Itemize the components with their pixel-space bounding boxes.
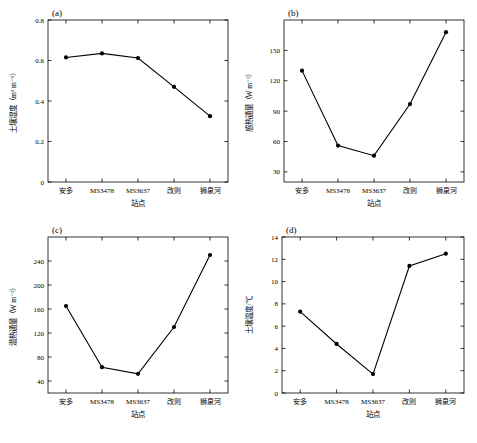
x-tick-label: MS3478 — [325, 398, 350, 406]
y-tick-label: 0.6 — [35, 57, 44, 65]
data-point — [208, 253, 212, 257]
y-tick-label: 0 — [275, 390, 279, 398]
panel-c-plot: 4080120160200240安多MS3478MS3637改则狮泉河站点潜热通… — [0, 215, 240, 443]
y-tick-label: 10 — [271, 278, 279, 286]
data-point — [64, 55, 68, 59]
x-tick-label: 狮泉河 — [200, 397, 221, 406]
x-tick-label: MS3478 — [326, 187, 351, 195]
y-axis-label: 土壤湿度（m³ m⁻³） — [8, 69, 18, 133]
x-tick-label: 狮泉河 — [435, 397, 456, 406]
data-point — [64, 304, 68, 308]
y-tick-label: 60 — [273, 138, 281, 146]
data-point — [208, 114, 212, 118]
x-tick-label: 狮泉河 — [200, 186, 221, 195]
data-point — [100, 365, 104, 369]
data-point — [335, 342, 339, 346]
data-point — [372, 154, 376, 158]
x-tick-label: 安多 — [59, 397, 73, 406]
data-point — [407, 264, 411, 268]
figure-canvas: 00.20.40.60.8安多MS3478MS3637改则狮泉河站点土壤湿度（m… — [0, 0, 477, 443]
y-tick-label: 4 — [275, 345, 279, 353]
y-tick-label: 0.8 — [35, 17, 44, 25]
x-axis-label: 站点 — [366, 409, 381, 419]
y-tick-label: 30 — [273, 168, 281, 176]
data-point — [136, 372, 140, 376]
panel-d-plot: 02468101214安多MS3478MS3637改则狮泉河站点土壤温度/℃(d… — [238, 215, 477, 443]
data-point — [371, 372, 375, 376]
x-axis-label: 站点 — [367, 198, 382, 208]
series-line — [66, 255, 210, 374]
panel-label: (b) — [288, 8, 299, 18]
y-tick-label: 240 — [34, 258, 45, 266]
x-tick-label: MS3637 — [361, 398, 386, 406]
y-tick-label: 8 — [275, 300, 279, 308]
panel-c: 4080120160200240安多MS3478MS3637改则狮泉河站点潜热通… — [0, 215, 240, 443]
axes-frame — [48, 20, 228, 182]
x-tick-label: 安多 — [59, 186, 73, 195]
y-tick-label: 200 — [34, 282, 45, 290]
y-axis-label: 土壤温度/℃ — [244, 295, 254, 333]
panel-label: (d) — [286, 225, 297, 235]
x-tick-label: MS3478 — [90, 398, 115, 406]
panel-a-plot: 00.20.40.60.8安多MS3478MS3637改则狮泉河站点土壤湿度（m… — [0, 0, 240, 218]
panel-label: (a) — [52, 8, 62, 18]
y-tick-label: 14 — [271, 234, 279, 242]
y-tick-label: 6 — [275, 323, 279, 331]
x-tick-label: MS3478 — [90, 187, 115, 195]
axes-frame — [282, 237, 464, 393]
y-tick-label: 0 — [41, 179, 45, 187]
y-tick-label: 120 — [270, 77, 281, 85]
x-tick-label: 安多 — [293, 397, 307, 406]
data-point — [136, 56, 140, 60]
series-line — [302, 32, 446, 156]
x-tick-label: MS3637 — [126, 187, 151, 195]
y-tick-label: 160 — [34, 306, 45, 314]
x-tick-label: 狮泉河 — [436, 186, 457, 195]
data-point — [300, 69, 304, 73]
series-line — [66, 53, 210, 116]
panel-d: 02468101214安多MS3478MS3637改则狮泉河站点土壤温度/℃(d… — [238, 215, 477, 443]
data-point — [336, 143, 340, 147]
y-tick-label: 120 — [34, 330, 45, 338]
series-line — [300, 254, 446, 374]
x-tick-label: 改则 — [167, 397, 181, 406]
x-tick-label: 安多 — [295, 186, 309, 195]
panel-b: 306090120150安多MS3478MS3637改则狮泉河站点感热通量（W … — [238, 0, 477, 218]
data-point — [298, 310, 302, 314]
x-axis-label: 站点 — [131, 198, 146, 208]
y-tick-label: 12 — [271, 256, 279, 264]
x-tick-label: 改则 — [167, 186, 181, 195]
data-point — [172, 325, 176, 329]
panel-a: 00.20.40.60.8安多MS3478MS3637改则狮泉河站点土壤湿度（m… — [0, 0, 240, 218]
panel-label: (c) — [52, 225, 62, 235]
y-tick-label: 90 — [273, 108, 281, 116]
y-tick-label: 80 — [37, 354, 45, 362]
data-point — [172, 85, 176, 89]
y-tick-label: 0.2 — [35, 138, 44, 146]
panel-b-plot: 306090120150安多MS3478MS3637改则狮泉河站点感热通量（W … — [238, 0, 477, 218]
y-tick-label: 150 — [270, 47, 281, 55]
y-tick-label: 40 — [37, 378, 45, 386]
x-tick-label: MS3637 — [126, 398, 151, 406]
data-point — [444, 252, 448, 256]
x-tick-label: 改则 — [402, 397, 416, 406]
x-tick-label: 改则 — [403, 186, 417, 195]
y-tick-label: 2 — [275, 367, 279, 375]
y-axis-label: 感热通量（W m⁻²） — [244, 70, 254, 133]
data-point — [408, 102, 412, 106]
data-point — [100, 51, 104, 55]
x-axis-label: 站点 — [131, 409, 146, 419]
axes-frame — [48, 237, 228, 393]
y-axis-label: 潜热通量（W m⁻²） — [8, 284, 18, 347]
y-tick-label: 0.4 — [35, 98, 44, 106]
x-tick-label: MS3637 — [362, 187, 387, 195]
data-point — [444, 30, 448, 34]
